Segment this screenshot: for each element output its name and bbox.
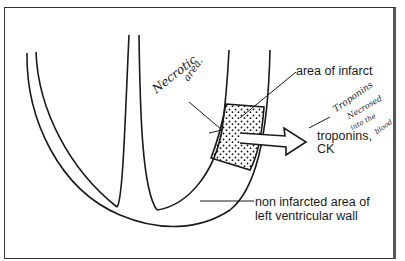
septum-left (117, 35, 129, 207)
label-non-infarcted-line1: non infarcted area of (255, 195, 370, 209)
label-non-infarcted: non infarcted area of left ventricular w… (255, 195, 370, 223)
leader-necrotic (189, 102, 222, 130)
label-troponins-line2: CK (317, 143, 372, 156)
label-area-of-infarct: area of infarct (296, 65, 372, 78)
inner-left-wall (36, 52, 117, 207)
handwritten-dash (309, 117, 330, 128)
leader-area-of-infarct (240, 72, 296, 118)
label-non-infarcted-line2: left ventricular wall (255, 209, 370, 223)
label-troponins: troponins, CK (317, 130, 372, 156)
septum-right (139, 35, 157, 210)
